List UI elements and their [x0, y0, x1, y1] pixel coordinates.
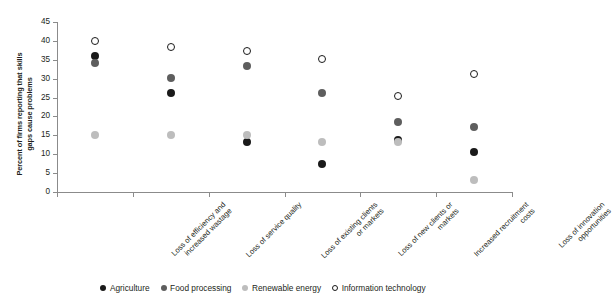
- data-point-infotech: [167, 43, 175, 51]
- data-point-agriculture: [167, 89, 175, 97]
- legend-item-infotech[interactable]: Information technology: [332, 283, 425, 293]
- legend-label: Agriculture: [110, 283, 150, 293]
- y-tick: 25: [53, 98, 57, 99]
- legend-marker-icon: [332, 285, 338, 291]
- y-tick-label: 0: [45, 187, 50, 196]
- legend-label: Information technology: [342, 283, 426, 293]
- y-tick-label: 35: [41, 55, 50, 64]
- y-tick: 20: [53, 116, 57, 117]
- y-tick: 5: [53, 173, 57, 174]
- y-axis-title: Percent of firms reporting that skills g…: [15, 19, 35, 209]
- x-tick: [133, 192, 134, 197]
- legend-marker-icon: [242, 285, 248, 291]
- data-point-renewable: [470, 176, 478, 184]
- plot-area: 051015202530354045: [57, 22, 512, 193]
- data-point-agriculture: [318, 160, 326, 168]
- y-tick: 40: [53, 41, 57, 42]
- data-point-renewable: [318, 138, 326, 146]
- y-tick-label: 25: [41, 93, 50, 102]
- y-tick-label: 45: [41, 17, 50, 26]
- data-point-food: [91, 59, 99, 67]
- legend-marker-icon: [100, 285, 106, 291]
- legend-marker-icon: [161, 285, 167, 291]
- y-tick: 35: [53, 60, 57, 61]
- data-point-food: [167, 74, 175, 82]
- data-point-agriculture: [470, 148, 478, 156]
- x-tick: [360, 192, 361, 197]
- data-point-infotech: [394, 92, 402, 100]
- legend-item-food[interactable]: Food processing: [161, 283, 232, 293]
- y-axis-line: [57, 22, 58, 193]
- y-tick-label: 5: [45, 168, 50, 177]
- legend-label: Renewable energy: [252, 283, 321, 293]
- x-tick: [285, 192, 286, 197]
- y-tick-label: 30: [41, 74, 50, 83]
- data-point-renewable: [91, 131, 99, 139]
- y-tick-label: 40: [41, 36, 50, 45]
- x-tick: [436, 192, 437, 197]
- y-tick-label: 20: [41, 111, 50, 120]
- data-point-renewable: [243, 131, 251, 139]
- data-point-renewable: [394, 138, 402, 146]
- y-tick: 30: [53, 79, 57, 80]
- legend-label: Food processing: [170, 283, 231, 293]
- data-point-renewable: [167, 131, 175, 139]
- x-tick: [209, 192, 210, 197]
- x-tick: [57, 192, 58, 197]
- data-point-food: [243, 62, 251, 70]
- data-point-infotech: [470, 70, 478, 78]
- y-tick: 10: [53, 154, 57, 155]
- data-point-food: [318, 89, 326, 97]
- legend-item-renewable[interactable]: Renewable energy: [242, 283, 321, 293]
- data-point-food: [470, 123, 478, 131]
- data-point-infotech: [318, 55, 326, 63]
- y-tick: 15: [53, 135, 57, 136]
- chart-legend: AgricultureFood processingRenewable ener…: [0, 283, 526, 293]
- legend-item-agriculture[interactable]: Agriculture: [100, 283, 149, 293]
- data-point-agriculture: [243, 138, 251, 146]
- y-tick-label: 15: [41, 130, 50, 139]
- y-tick-label: 10: [41, 149, 50, 158]
- data-point-infotech: [91, 37, 99, 45]
- data-point-infotech: [243, 47, 251, 55]
- x-tick: [512, 192, 513, 197]
- y-tick: 45: [53, 22, 57, 23]
- data-point-food: [394, 118, 402, 126]
